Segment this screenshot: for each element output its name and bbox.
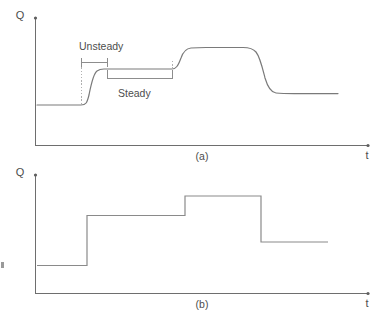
panel-a-x-axis-arrow-icon bbox=[366, 144, 369, 147]
panel-a-unsteady-label: Unsteady bbox=[79, 40, 124, 52]
panel-b-x-axis-label: t bbox=[365, 297, 368, 309]
panel-a-steady-label: Steady bbox=[118, 87, 151, 99]
panel-a: Q t Unsteady Steady (a) bbox=[16, 9, 370, 162]
panel-a-unsteady-bracket bbox=[82, 58, 108, 67]
panel-b-y-axis-arrow-icon bbox=[34, 173, 37, 176]
panel-b-caption: (b) bbox=[196, 298, 209, 310]
panel-b: Q t (b) bbox=[16, 166, 370, 310]
figure-root: Q t Unsteady Steady (a) Q t (b) bbox=[0, 0, 381, 326]
panel-b-y-axis-label: Q bbox=[16, 166, 25, 178]
panel-a-y-axis-label: Q bbox=[16, 9, 25, 21]
qt-diagram-canvas: Q t Unsteady Steady (a) Q t (b) bbox=[0, 0, 381, 326]
panel-a-x-axis-label: t bbox=[365, 149, 368, 161]
panel-a-discharge-curve bbox=[37, 48, 338, 106]
panel-b-step-curve bbox=[37, 196, 328, 266]
left-edge-artifact bbox=[1, 262, 4, 268]
panel-a-y-axis-arrow-icon bbox=[34, 16, 37, 19]
panel-a-caption: (a) bbox=[196, 150, 209, 162]
panel-b-x-axis-arrow-icon bbox=[366, 292, 369, 295]
panel-a-steady-bracket bbox=[108, 70, 173, 79]
